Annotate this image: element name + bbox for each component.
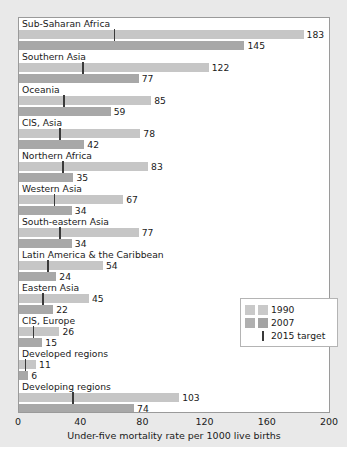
bar-1990 [19,360,36,369]
bar-1990 [19,30,304,39]
bar-value-label: 15 [45,337,57,348]
legend-swatch-1990 [258,305,268,315]
x-tick-label: 200 [320,416,338,427]
bar-value-label: 67 [126,194,138,205]
bar-row: 183 [19,30,329,39]
bar-group: Western Asia6734 [19,183,329,216]
bar-value-label: 74 [137,403,149,414]
bar-value-label: 77 [142,227,154,238]
bar-1990 [19,261,103,270]
legend-swatch-spacer [245,331,255,341]
bar-row: 59 [19,107,329,116]
bar-1990 [19,393,179,402]
bar-2007 [19,272,56,281]
bar-1990 [19,327,59,336]
bar-value-label: 26 [62,326,74,337]
bar-row: 122 [19,63,329,72]
legend-label-2007: 2007 [271,317,294,328]
bar-row: 24 [19,272,329,281]
bar-1990 [19,63,209,72]
bar-value-label: 77 [142,73,154,84]
bar-1990 [19,96,151,105]
legend-item-1990: 1990 [245,303,332,316]
bar-value-label: 183 [307,29,325,40]
bar-group: Northern Africa8335 [19,150,329,183]
bar-2007 [19,305,53,314]
bar-value-label: 34 [75,238,87,249]
bar-1990 [19,129,140,138]
category-label: South-eastern Asia [22,216,109,227]
bar-row: 103 [19,393,329,402]
category-label: Latin America & the Caribbean [22,249,164,260]
bar-value-label: 11 [39,359,51,370]
bar-1990 [19,294,89,303]
bar-group: Latin America & the Caribbean5424 [19,249,329,282]
target-marker-icon [258,331,268,341]
bar-group: CIS, Asia7842 [19,117,329,150]
bar-group: Developing regions10374 [19,381,329,413]
category-label: CIS, Asia [22,117,62,128]
legend-swatch-2007 [258,318,268,328]
bar-group: Sub-Saharan Africa183145 [19,18,329,51]
bar-value-label: 122 [212,62,230,73]
legend-item-2015-target: 2015 target [245,329,332,342]
category-label: Sub-Saharan Africa [22,18,110,29]
category-label: Oceania [22,84,60,95]
bar-row: 77 [19,228,329,237]
bar-group: Developed regions116 [19,348,329,381]
bar-value-label: 6 [31,370,37,381]
bar-row: 67 [19,195,329,204]
bar-2007 [19,371,28,380]
chart-legend: 1990 2007 2015 target [240,298,338,347]
chart-figure: Sub-Saharan Africa183145Southern Asia122… [0,0,347,461]
bar-row: 42 [19,140,329,149]
bar-2007 [19,404,134,413]
x-tick-label: 80 [136,416,148,427]
bar-value-label: 83 [151,161,163,172]
bar-row: 54 [19,261,329,270]
bar-2007 [19,41,244,50]
bar-2007 [19,107,111,116]
x-tick-label: 120 [196,416,214,427]
x-axis-label: Under-five mortality rate per 1000 live … [18,430,330,441]
x-tick-label: 40 [74,416,86,427]
bar-value-label: 45 [92,293,104,304]
bar-value-label: 59 [114,106,126,117]
plot-area: Sub-Saharan Africa183145Southern Asia122… [18,17,330,413]
bar-2007 [19,338,42,347]
bar-1990 [19,162,148,171]
bar-group: Southern Asia12277 [19,51,329,84]
bar-groups: Sub-Saharan Africa183145Southern Asia122… [19,18,329,412]
bar-value-label: 24 [59,271,71,282]
category-label: Northern Africa [22,150,92,161]
bar-2007 [19,140,84,149]
bar-2007 [19,206,72,215]
bar-row: 78 [19,129,329,138]
category-label: Western Asia [22,183,82,194]
category-label: Southern Asia [22,51,86,62]
bar-group: Oceania8559 [19,84,329,117]
bar-2007 [19,173,73,182]
category-label: CIS, Europe [22,315,75,326]
bar-value-label: 34 [75,205,87,216]
bar-row: 34 [19,206,329,215]
bar-row: 6 [19,371,329,380]
bar-row: 74 [19,404,329,413]
bar-value-label: 85 [154,95,166,106]
legend-label-2015-target: 2015 target [271,330,325,341]
legend-label-1990: 1990 [271,304,294,315]
bar-row: 83 [19,162,329,171]
bar-2007 [19,239,72,248]
bar-row: 85 [19,96,329,105]
bar-row: 77 [19,74,329,83]
x-tick-label: 160 [258,416,276,427]
bar-value-label: 54 [106,260,118,271]
legend-item-2007: 2007 [245,316,332,329]
bar-value-label: 22 [56,304,68,315]
bar-row: 11 [19,360,329,369]
bar-value-label: 35 [76,172,88,183]
bar-2007 [19,74,139,83]
legend-swatch-1990-light [245,305,255,315]
bar-value-label: 42 [87,139,99,150]
x-tick-label: 0 [15,416,21,427]
